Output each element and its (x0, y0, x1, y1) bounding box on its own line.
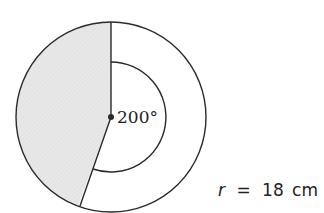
angle-label: 200° (117, 107, 158, 127)
radius-equals: = (236, 180, 250, 200)
center-point (108, 114, 114, 120)
radius-unit: cm (292, 180, 318, 200)
radius-variable: r (218, 180, 226, 200)
radius-label: r = 18 cm (218, 180, 318, 200)
radius-value: 18 (262, 180, 284, 200)
shaded-sector (16, 22, 111, 206)
circle-sector-diagram: 200° r = 18 cm (0, 0, 324, 213)
